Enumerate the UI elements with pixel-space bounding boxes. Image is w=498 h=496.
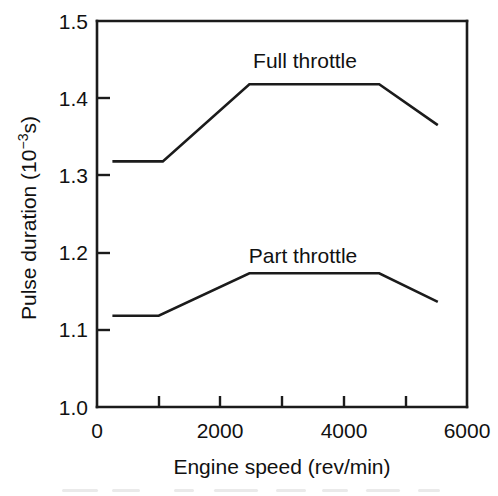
y-axis-title-base: Pulse duration (10	[17, 150, 40, 320]
x-tick-label-4000: 4000	[321, 419, 368, 442]
series-label-part-throttle: Part throttle	[249, 244, 358, 267]
y-tick-label-1.1: 1.1	[59, 318, 88, 341]
x-tick-label-2000: 2000	[197, 419, 244, 442]
figure-container: 1.5 1.4 1.3 1.2 1.1 1.0 Pulse duration (…	[0, 0, 498, 496]
y-tick-label-1.2: 1.2	[59, 241, 88, 264]
y-tick-label-1.3: 1.3	[59, 164, 88, 187]
engine-pulse-duration-chart: 1.5 1.4 1.3 1.2 1.1 1.0 Pulse duration (…	[0, 0, 498, 496]
x-axis-title: Engine speed (rev/min)	[173, 455, 390, 478]
y-tick-label-1.4: 1.4	[59, 87, 89, 110]
y-tick-label-1.0: 1.0	[59, 396, 88, 419]
y-tick-label-1.5: 1.5	[59, 10, 88, 33]
y-axis-title-tail: s)	[17, 116, 40, 134]
x-tick-label-0: 0	[91, 419, 103, 442]
y-axis-title-exponent: −3	[15, 133, 31, 149]
series-label-full-throttle: Full throttle	[253, 49, 357, 72]
x-tick-label-6000: 6000	[444, 419, 491, 442]
scan-artifact-strip	[62, 489, 440, 492]
